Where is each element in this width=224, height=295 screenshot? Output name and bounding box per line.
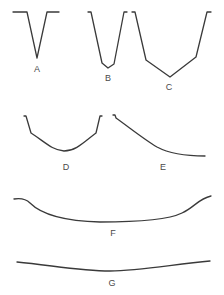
profile-d-line	[24, 116, 102, 151]
profile-f-label: F	[110, 228, 116, 238]
profile-b-label: B	[105, 73, 111, 83]
profile-c-label: C	[166, 82, 173, 92]
profile-e-line	[113, 115, 205, 156]
profile-e-label: E	[160, 162, 166, 172]
profile-a-line	[13, 12, 59, 58]
profile-b: B	[88, 12, 127, 83]
profile-a: A	[13, 12, 59, 74]
profile-f: F	[14, 196, 211, 238]
profile-a-label: A	[34, 64, 40, 74]
profile-g: G	[17, 261, 210, 288]
profile-d-label: D	[63, 162, 70, 172]
valley-profiles-diagram: A B C D E F G	[0, 0, 224, 295]
profile-c: C	[132, 12, 211, 92]
profile-b-line	[88, 12, 127, 68]
profile-g-line	[17, 261, 210, 271]
profile-e: E	[113, 115, 205, 172]
profile-c-line	[132, 12, 211, 77]
profile-f-line	[14, 196, 211, 222]
profile-g-label: G	[108, 278, 115, 288]
profile-d: D	[24, 116, 102, 172]
